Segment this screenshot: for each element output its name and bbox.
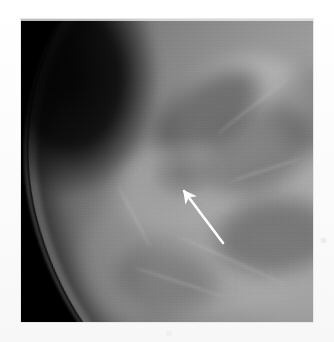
scanner-artifact-bottom	[166, 331, 172, 336]
scanner-artifact-right	[321, 238, 326, 243]
page-root	[0, 0, 334, 342]
film-vignette	[21, 19, 313, 322]
mammogram-figure	[21, 19, 313, 322]
radiograph-canvas	[21, 19, 313, 322]
scan-edge	[21, 19, 313, 21]
